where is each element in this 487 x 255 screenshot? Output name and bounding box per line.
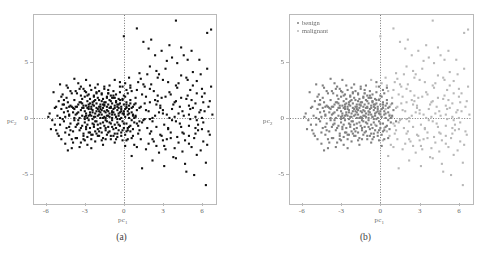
x-axis-label-text-a: pc xyxy=(118,216,125,224)
x-tick-label: 0 xyxy=(372,207,388,215)
y-tickmark xyxy=(30,174,33,175)
x-tick-label: 6 xyxy=(451,207,467,215)
y-tickmark xyxy=(286,174,289,175)
legend-label-malignant: malignant xyxy=(302,27,328,35)
y-tickmark xyxy=(30,118,33,119)
x-tickmark xyxy=(341,203,342,206)
x-tickmark xyxy=(163,203,164,206)
y-tick-label: 5 xyxy=(272,58,284,66)
x-tick-label: -3 xyxy=(333,207,349,215)
x-tick-label: -6 xyxy=(294,207,310,215)
scatter-canvas-a xyxy=(34,15,215,203)
legend-item-malignant: malignant xyxy=(297,27,328,35)
y-tick-label: -5 xyxy=(16,170,28,178)
x-tickmark xyxy=(459,203,460,206)
x-tick-label: 3 xyxy=(155,207,171,215)
x-tick-label: 3 xyxy=(412,207,428,215)
x-axis-label-b: pc1 xyxy=(375,216,385,225)
panel-a: pc2 pc1 (a) -6-303650-5 xyxy=(0,0,243,255)
x-tickmark xyxy=(46,203,47,206)
x-tickmark xyxy=(124,203,125,206)
x-tick-label: -3 xyxy=(77,207,93,215)
y-tick-label: 0 xyxy=(16,114,28,122)
scatter-canvas-b xyxy=(290,15,472,203)
x-axis-label-sub-a: 1 xyxy=(125,220,128,225)
x-tick-label: 6 xyxy=(194,207,210,215)
scatter-figure: pc2 pc1 (a) -6-303650-5 benign malignant… xyxy=(0,0,487,255)
y-tick-label: -5 xyxy=(272,170,284,178)
x-tick-label: -6 xyxy=(38,207,54,215)
x-tickmark xyxy=(380,203,381,206)
y-tick-label: 5 xyxy=(16,58,28,66)
y-axis-label-text-a: pc xyxy=(7,117,14,125)
legend-label-benign: benign xyxy=(302,19,320,27)
panel-caption-b: (b) xyxy=(244,232,487,242)
y-tick-label: 0 xyxy=(272,114,284,122)
y-tickmark xyxy=(286,118,289,119)
legend-item-benign: benign xyxy=(297,19,328,27)
x-axis-label-a: pc1 xyxy=(118,216,128,225)
x-tickmark xyxy=(85,203,86,206)
panel-caption-a: (a) xyxy=(0,232,243,242)
y-tickmark xyxy=(30,62,33,63)
x-tick-label: 0 xyxy=(116,207,132,215)
legend: benign malignant xyxy=(297,19,328,35)
x-tickmark xyxy=(202,203,203,206)
x-tickmark xyxy=(302,203,303,206)
x-axis-label-sub-b: 1 xyxy=(382,220,385,225)
panel-b: benign malignant pc2 pc1 (b) -6-303650-5 xyxy=(244,0,487,255)
y-axis-label-text-b: pc xyxy=(263,117,270,125)
y-tickmark xyxy=(286,62,289,63)
legend-marker-benign xyxy=(297,22,299,24)
x-axis-label-text-b: pc xyxy=(375,216,382,224)
x-tickmark xyxy=(420,203,421,206)
legend-marker-malignant xyxy=(297,30,299,32)
